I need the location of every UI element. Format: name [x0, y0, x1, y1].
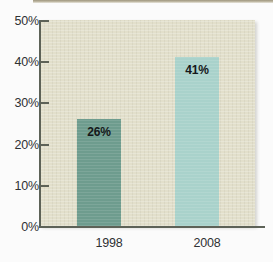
y-axis-line: [39, 20, 41, 227]
plot-texture-overlay: [40, 20, 255, 226]
y-axis-tick-40: [41, 61, 49, 63]
x-axis-label-2008: 2008: [155, 236, 259, 250]
bar-2008-value-label: 41%: [175, 63, 219, 77]
bar-2008[interactable]: 41%: [175, 57, 219, 226]
bar-1998-value-label: 26%: [77, 125, 121, 139]
y-axis-tick-20: [41, 144, 49, 146]
bar-1998[interactable]: 26%: [77, 119, 121, 226]
y-axis-label-40: 40%: [3, 56, 39, 69]
y-axis-tick-50: [41, 20, 49, 22]
y-axis-label-20: 20%: [3, 138, 39, 151]
bar-2008-fill: [175, 57, 219, 226]
y-axis-tick-30: [41, 102, 49, 104]
y-axis-label-50: 50%: [3, 15, 39, 28]
y-axis-label-0: 0%: [3, 221, 39, 234]
x-axis-line: [39, 226, 265, 228]
plot-area: 26% 41%: [40, 20, 255, 226]
y-axis-tick-10: [41, 185, 49, 187]
x-axis-label-1998: 1998: [57, 236, 161, 250]
bar-chart: 26% 41% 50% 40% 30% 20% 10% 0% 1998 2008: [0, 0, 273, 262]
y-axis-label-10: 10%: [3, 180, 39, 193]
y-axis-label-30: 30%: [3, 97, 39, 110]
